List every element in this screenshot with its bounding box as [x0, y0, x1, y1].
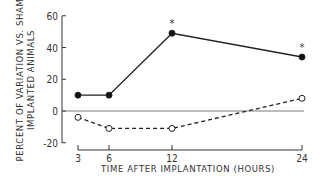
open-circle-marker [299, 95, 305, 101]
y-tick-label: 20 [47, 74, 59, 85]
open-circle-marker [75, 114, 81, 120]
x-tick-label: 3 [75, 153, 81, 164]
y-tick-label: 60 [47, 11, 59, 22]
x-ticks: 361224 [75, 145, 308, 164]
y-axis-title-line2: IMPLANTED ANIMALS [26, 30, 36, 130]
open-circle-marker [169, 125, 175, 131]
y-tick-label: 40 [47, 43, 59, 54]
series-group: ** [75, 18, 305, 131]
filled-series-line [78, 33, 302, 95]
filled-circle-marker [75, 92, 81, 98]
y-ticks: 6040200-20 [43, 11, 66, 149]
x-tick-label: 24 [296, 153, 308, 164]
significance-asterisk: * [169, 18, 175, 29]
significance-asterisk: * [299, 42, 305, 53]
x-axis-title: TIME AFTER IMPLANTATION (HOURS) [100, 164, 275, 174]
open-circle-marker [106, 125, 112, 131]
y-tick-label: -20 [43, 138, 58, 149]
chart: 6040200-20 361224 ** TIME AFTER IMPLANTA… [0, 0, 323, 184]
x-tick-label: 12 [166, 153, 177, 164]
y-tick-label: 0 [52, 106, 58, 117]
x-tick-label: 6 [106, 153, 112, 164]
open-series-line [78, 98, 302, 128]
filled-circle-marker [106, 92, 112, 98]
y-axis-title-line1: PERCENT OF VARIATION VS. SHAM [15, 0, 25, 161]
filled-circle-marker [299, 54, 305, 60]
filled-circle-marker [169, 30, 175, 36]
